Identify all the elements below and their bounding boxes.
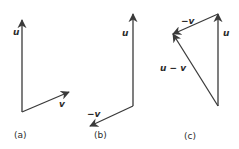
vector-diagram: u v (a) u −v (b) −v u u − v (c) [0, 0, 239, 149]
caption-c: (c) [184, 131, 196, 141]
panel-c: −v u u − v (c) [160, 14, 230, 141]
label-u: u [122, 28, 129, 38]
label-u: u [223, 28, 230, 38]
label-u: u [13, 27, 20, 37]
caption-a: (a) [14, 130, 27, 140]
label-v: v [59, 99, 66, 109]
label-neg-v: −v [181, 16, 196, 26]
label-u-minus-v: u − v [160, 63, 187, 73]
vector-neg-v-arrow [173, 14, 218, 34]
panel-b: u −v (b) [87, 14, 133, 140]
caption-b: (b) [94, 130, 107, 140]
panel-a: u v (a) [13, 20, 69, 140]
label-neg-v: −v [87, 109, 102, 119]
